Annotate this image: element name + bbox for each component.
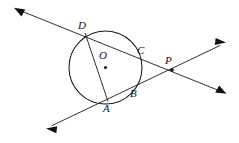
point-p-dot xyxy=(170,68,174,72)
label-point-D: D xyxy=(78,20,86,31)
tangent-arrow-upper-right-icon xyxy=(215,38,226,45)
label-point-P: P xyxy=(165,55,172,66)
tangent-arrow-lower-left-icon xyxy=(46,126,57,133)
label-point-A: A xyxy=(103,103,110,114)
center-point-dot xyxy=(104,66,107,69)
label-point-B: B xyxy=(130,88,137,99)
secant-line xyxy=(20,11,220,92)
secant-arrow-upper-left-icon xyxy=(14,8,25,17)
geometry-diagram: O D C P A B xyxy=(0,0,239,143)
secant-arrow-lower-right-icon xyxy=(215,86,226,94)
label-center-O: O xyxy=(99,50,107,61)
label-point-C: C xyxy=(137,45,144,56)
geometry-canvas xyxy=(0,0,239,143)
